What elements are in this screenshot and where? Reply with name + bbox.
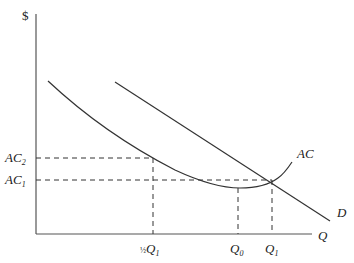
guide-lines <box>36 158 272 234</box>
q1-label: Q1 <box>265 241 278 258</box>
ac1-label: AC1 <box>4 172 26 189</box>
y-axis-label: $ <box>22 8 29 23</box>
ac2-label: AC2 <box>4 150 26 167</box>
x-axis-label: Q <box>318 228 328 243</box>
cost-demand-diagram: $ Q AC D AC2 AC1 ½Q1 Q0 Q1 <box>0 0 354 263</box>
half-q1-label: ½Q1 <box>140 241 159 258</box>
average-cost-curve <box>48 81 292 188</box>
demand-curve-label: D <box>336 205 347 220</box>
ac-curve-label: AC <box>296 146 314 161</box>
q0-label: Q0 <box>230 241 243 258</box>
